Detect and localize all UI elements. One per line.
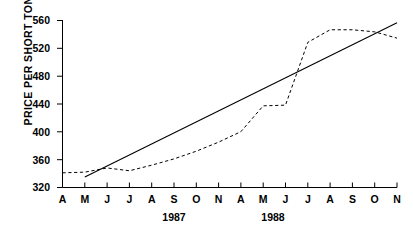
series-line-actual — [63, 30, 398, 173]
y-tick-label-400: 400 — [16, 126, 50, 138]
x-group-label-1988: 1988 — [248, 211, 298, 223]
y-tick-label-320: 320 — [16, 181, 50, 193]
x-tick-label-5: S — [165, 193, 183, 205]
x-tick-label-11: J — [299, 193, 317, 205]
x-tick-label-13: S — [343, 193, 361, 205]
y-tick-label-480: 480 — [16, 70, 50, 82]
x-tick-label-8: A — [232, 193, 250, 205]
y-tick-label-560: 560 — [16, 14, 50, 26]
x-tick-label-0: A — [54, 193, 72, 205]
x-tick-label-14: O — [366, 193, 384, 205]
y-tick-label-440: 440 — [16, 98, 50, 110]
x-group-label-1987: 1987 — [149, 211, 199, 223]
chart-container: PRICE PER SHORT TON 560 520 480 440 400 … — [0, 0, 413, 236]
y-tick-label-520: 520 — [16, 42, 50, 54]
x-tick-label-9: M — [254, 193, 272, 205]
x-tick-label-3: J — [120, 193, 138, 205]
x-tick-label-12: A — [321, 193, 339, 205]
series-line-trend — [85, 23, 397, 177]
y-tick-label-360: 360 — [16, 154, 50, 166]
x-tick-label-4: A — [143, 193, 161, 205]
x-tick-label-2: J — [98, 193, 116, 205]
x-tick-marks — [63, 183, 398, 188]
x-tick-label-15: N — [388, 193, 406, 205]
x-tick-label-10: J — [277, 193, 295, 205]
x-tick-label-6: O — [187, 193, 205, 205]
x-tick-label-7: N — [210, 193, 228, 205]
x-tick-label-1: M — [76, 193, 94, 205]
y-tick-marks — [57, 21, 63, 188]
